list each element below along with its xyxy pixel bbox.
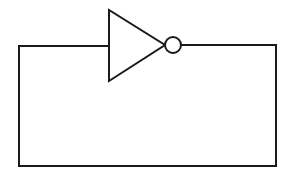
inversion-bubble [165, 37, 181, 53]
not-gate-triangle [109, 10, 165, 81]
circuit-diagram [0, 0, 293, 174]
feedback-loop-wire [19, 45, 276, 166]
